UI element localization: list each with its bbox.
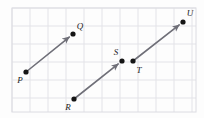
vector-layer [0, 0, 204, 118]
geometry-figure: PQRSTU [0, 0, 204, 118]
vector-tu [133, 25, 179, 61]
point-dot-q [70, 31, 75, 36]
point-dot-t [130, 58, 135, 63]
vector-rs [74, 64, 118, 99]
point-dot-r [71, 96, 76, 101]
point-dot-u [180, 19, 185, 24]
vector-pq [26, 37, 69, 72]
point-dot-s [119, 58, 124, 63]
point-dot-p [23, 69, 28, 74]
